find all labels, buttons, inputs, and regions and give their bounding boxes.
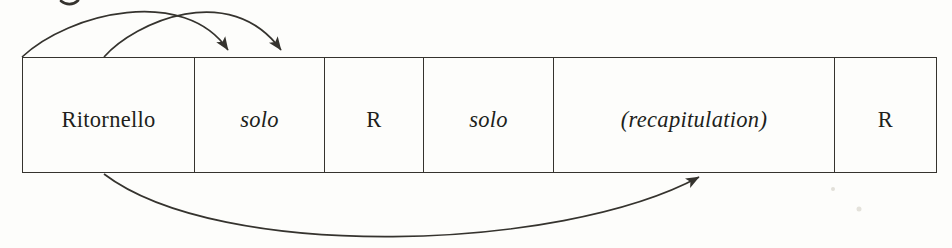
- box-r-2-label: R: [878, 107, 893, 133]
- box-r-1: R: [325, 58, 424, 172]
- box-recapitulation: (recapitulation): [554, 58, 835, 172]
- box-solo-1: solo: [195, 58, 325, 172]
- arrow-ritornello-to-solo-right: [104, 12, 281, 57]
- form-boxes-row: Ritornello solo R solo (recapitulation) …: [22, 57, 937, 173]
- box-r-2: R: [835, 58, 936, 172]
- box-solo-2: solo: [424, 58, 554, 172]
- arrow-ritornello-to-solo-left: [22, 12, 228, 57]
- arrow-ritornello-to-recapitulation: [104, 174, 699, 237]
- ritornello-form-diagram: Ritornello solo R solo (recapitulation) …: [0, 0, 952, 248]
- box-ritornello-label: Ritornello: [61, 107, 155, 133]
- cropped-caption-descender-mark: [61, 1, 78, 5]
- scan-speck: [857, 207, 862, 212]
- scan-speck: [831, 187, 835, 191]
- box-solo-1-label: solo: [240, 107, 279, 133]
- box-r-1-label: R: [366, 107, 381, 133]
- box-recapitulation-label: (recapitulation): [621, 107, 767, 133]
- box-solo-2-label: solo: [469, 107, 508, 133]
- box-ritornello: Ritornello: [23, 58, 195, 172]
